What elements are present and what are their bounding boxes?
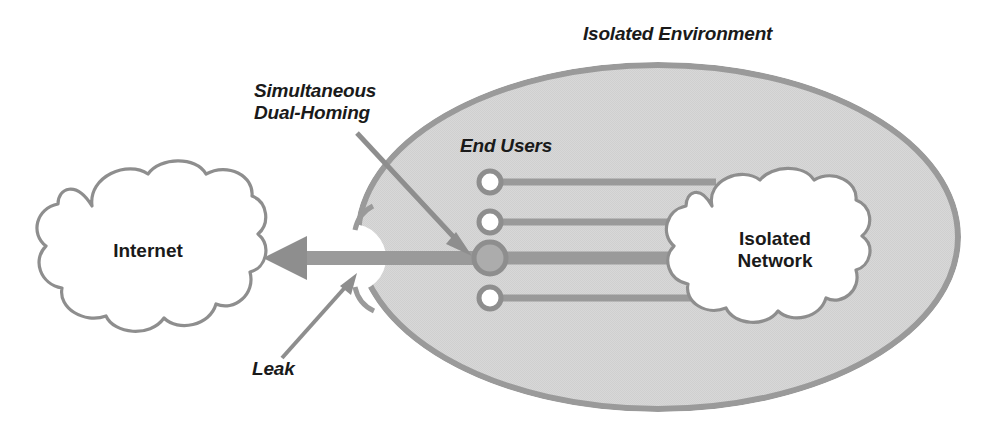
end-users-label: End Users (460, 135, 552, 157)
end-user-node-1[interactable] (479, 171, 501, 193)
isolated-network-label: Isolated Network (690, 228, 860, 273)
end-user-node-2[interactable] (479, 211, 501, 233)
isolated-environment-region (355, 62, 961, 412)
leak-annotation-arrow (282, 273, 357, 358)
isolated-environment-label: Isolated Environment (583, 23, 772, 45)
isolated-environment-diagram (0, 0, 994, 435)
end-user-node-4[interactable] (479, 287, 501, 309)
diagram-canvas: Isolated Environment Simultaneous Dual-H… (0, 0, 994, 435)
leak-label: Leak (252, 358, 295, 380)
internet-label: Internet (58, 240, 238, 262)
simultaneous-dual-homing-label: Simultaneous Dual-Homing (254, 80, 376, 125)
leak-arrow-head (263, 236, 307, 280)
leak-annotation-arrow-shaft (282, 283, 349, 358)
end-user-node-3-dual-homed[interactable] (474, 242, 506, 274)
leak-arrow-shaft (288, 251, 503, 265)
